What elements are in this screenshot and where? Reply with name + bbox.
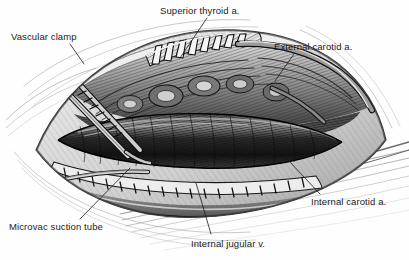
label-superior-thyroid-artery: Superior thyroid a. — [160, 5, 240, 16]
surgical-illustration-figure: Vascular clamp Superior thyroid a. Exter… — [0, 0, 409, 260]
leader-line-vascular-clamp — [70, 44, 84, 64]
label-vascular-clamp: Vascular clamp — [11, 31, 77, 42]
label-microvac-suction-tube: Microvac suction tube — [9, 221, 103, 232]
label-external-carotid-artery: External carotid a. — [274, 41, 352, 52]
label-internal-carotid-artery: Internal carotid a. — [311, 196, 386, 207]
label-internal-jugular-vein: Internal jugular v. — [191, 238, 265, 249]
